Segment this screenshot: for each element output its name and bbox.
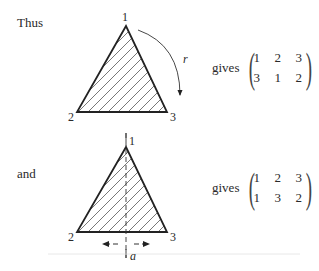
- right-paren: ): [306, 47, 312, 89]
- matrix-cell: 1: [274, 71, 295, 85]
- matrix-cell: 2: [274, 171, 295, 185]
- vertex-label-3: 3: [170, 111, 176, 123]
- rotation-label: r: [183, 53, 188, 65]
- permutation-matrix-rotation: gives ( 1 2 3 3 1 2 ): [212, 47, 316, 89]
- figure-canvas: [0, 0, 319, 271]
- matrix-cell: 2: [274, 51, 295, 65]
- left-paren: (: [249, 167, 255, 209]
- matrix-cell: 3: [274, 191, 295, 205]
- gives-label: gives: [212, 180, 239, 196]
- vertex-label-1: 1: [122, 11, 128, 23]
- intro-word-thus: Thus: [17, 16, 43, 30]
- vertex-label-3: 3: [170, 231, 176, 243]
- vertex-label-2: 2: [68, 111, 74, 123]
- vertex-label-1: 1: [129, 135, 135, 147]
- matrix-cell: 1: [253, 171, 274, 185]
- gives-label: gives: [212, 60, 239, 76]
- vertex-label-2: 2: [68, 231, 74, 243]
- left-paren: (: [249, 47, 255, 89]
- matrix-cell: 3: [253, 71, 274, 85]
- intro-word-and: and: [17, 167, 36, 181]
- matrix-cell: 1: [253, 191, 274, 205]
- matrix-cell: 1: [253, 51, 274, 65]
- axis-label: a: [130, 250, 136, 262]
- permutation-matrix-reflection: gives ( 1 2 3 1 3 2 ): [212, 167, 316, 209]
- right-paren: ): [306, 167, 312, 209]
